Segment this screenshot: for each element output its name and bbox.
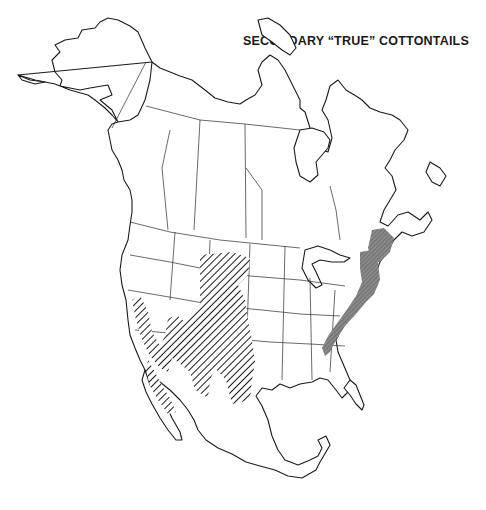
north-america-map [0,0,486,510]
mainland-landmass [108,55,432,478]
newfoundland [426,162,446,186]
baffin-island [258,18,296,55]
alaska-landmass [18,18,152,122]
florida [344,380,364,410]
